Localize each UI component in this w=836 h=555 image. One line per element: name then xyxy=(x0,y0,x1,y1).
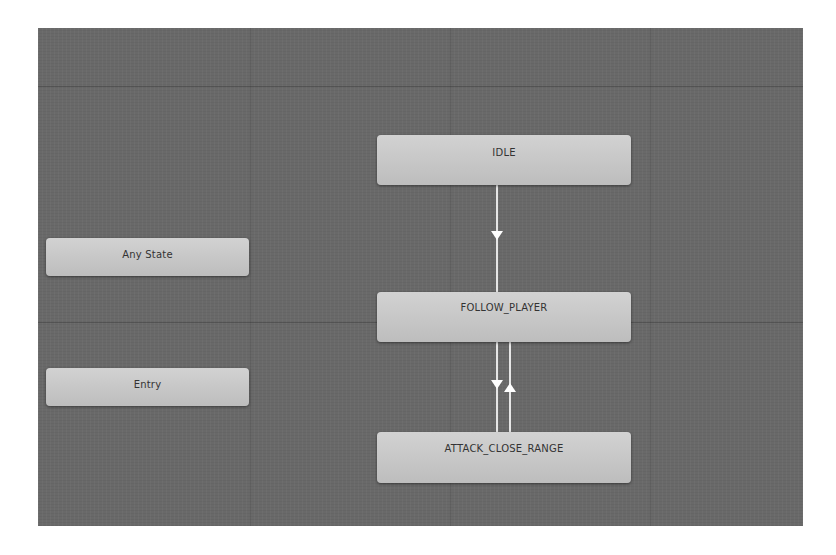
grid-line xyxy=(38,86,803,87)
arrow-up-icon xyxy=(504,383,516,392)
state-label: Any State xyxy=(122,249,173,260)
state-label: FOLLOW_PLAYER xyxy=(460,302,547,313)
grid-line xyxy=(650,28,651,526)
state-label: IDLE xyxy=(492,147,515,158)
state-node-attack-close-range[interactable]: ATTACK_CLOSE_RANGE xyxy=(377,432,631,483)
state-node-follow-player[interactable]: FOLLOW_PLAYER xyxy=(377,292,631,342)
state-node-entry[interactable]: Entry xyxy=(46,368,249,406)
state-node-idle[interactable]: IDLE xyxy=(377,135,631,185)
state-node-any-state[interactable]: Any State xyxy=(46,238,249,276)
state-label: ATTACK_CLOSE_RANGE xyxy=(445,443,564,454)
grid-line xyxy=(250,28,251,526)
arrow-down-icon xyxy=(491,231,503,240)
arrow-down-icon xyxy=(491,380,503,389)
state-label: Entry xyxy=(134,379,162,390)
